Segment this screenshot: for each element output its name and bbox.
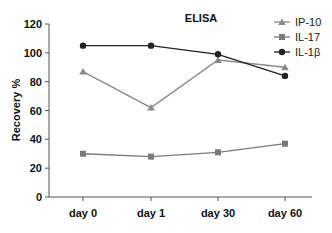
y-tick-label: 120 bbox=[24, 18, 42, 30]
circle-marker bbox=[80, 42, 86, 48]
legend-item: IL-17 bbox=[274, 31, 320, 43]
series-group bbox=[79, 42, 289, 159]
legend-item: IP-10 bbox=[274, 16, 321, 28]
circle-marker bbox=[215, 51, 221, 57]
y-tick-label: 0 bbox=[36, 191, 42, 203]
series-il-17 bbox=[80, 141, 288, 160]
legend-label: IL-17 bbox=[295, 31, 320, 43]
x-tick-label: day 1 bbox=[137, 207, 165, 219]
elisa-line-chart: ELISA Recovery % 020406080100120day 0day… bbox=[0, 0, 332, 233]
y-tick-label: 60 bbox=[30, 105, 42, 117]
legend: IP-10IL-17IL-1β bbox=[274, 16, 321, 58]
chart-title: ELISA bbox=[185, 12, 217, 24]
circle-marker bbox=[148, 42, 154, 48]
series-il-1- bbox=[80, 42, 288, 79]
legend-item: IL-1β bbox=[274, 46, 320, 58]
series-line bbox=[83, 60, 285, 108]
square-marker bbox=[282, 141, 288, 147]
square-marker bbox=[279, 34, 285, 40]
series-line bbox=[83, 46, 285, 76]
x-tick-label: day 30 bbox=[201, 207, 235, 219]
chart-canvas: ELISA Recovery % 020406080100120day 0day… bbox=[0, 0, 332, 233]
circle-marker bbox=[282, 73, 288, 79]
circle-marker bbox=[279, 49, 285, 55]
series-ip-10 bbox=[79, 57, 289, 111]
y-axis-label: Recovery % bbox=[10, 79, 22, 142]
square-marker bbox=[215, 149, 221, 155]
triangle-marker bbox=[79, 68, 87, 75]
y-tick-label: 100 bbox=[24, 47, 42, 59]
y-tick-label: 20 bbox=[30, 162, 42, 174]
square-marker bbox=[80, 151, 86, 157]
series-line bbox=[83, 144, 285, 157]
y-tick-label: 80 bbox=[30, 76, 42, 88]
square-marker bbox=[148, 154, 154, 160]
legend-label: IP-10 bbox=[295, 16, 321, 28]
x-tick-label: day 60 bbox=[268, 207, 302, 219]
x-tick-label: day 0 bbox=[69, 207, 97, 219]
legend-label: IL-1β bbox=[295, 46, 320, 58]
y-tick-label: 40 bbox=[30, 133, 42, 145]
